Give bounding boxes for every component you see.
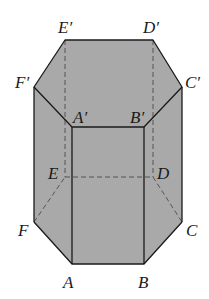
hexagonal-prism-diagram: E′ D′ F′ C′ A′ B′ E D F C A B: [0, 0, 209, 299]
label-C: C: [186, 222, 197, 239]
label-C-prime: C′: [185, 74, 200, 91]
label-A: A: [63, 274, 73, 291]
prism-drawing: [0, 0, 209, 299]
label-F: F: [18, 222, 28, 239]
label-D-prime: D′: [143, 19, 159, 36]
prism-body: [34, 40, 182, 264]
label-E-prime: E′: [58, 19, 72, 36]
label-B: B: [138, 274, 148, 291]
label-F-prime: F′: [15, 74, 29, 91]
label-A-prime: A′: [73, 109, 87, 126]
label-E: E: [48, 165, 58, 182]
label-B-prime: B′: [130, 109, 144, 126]
label-D: D: [157, 165, 169, 182]
